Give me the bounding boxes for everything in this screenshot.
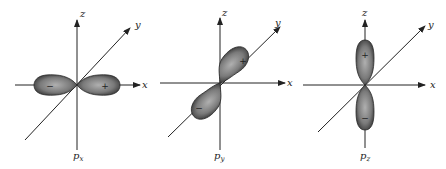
sign-plus: + — [361, 50, 369, 60]
y-axis — [168, 27, 280, 137]
y-axis-label: y — [274, 17, 281, 28]
lobe-negative — [186, 79, 232, 124]
sign-minus: − — [46, 81, 54, 91]
sign-minus: − — [361, 113, 369, 123]
lobe-positive — [356, 40, 374, 85]
z-axis-label: z — [221, 7, 228, 18]
panel-label: px — [73, 150, 83, 163]
z-axis-label: z — [79, 8, 86, 19]
y-axis-label: y — [134, 19, 141, 30]
panel-px: − + z y x px — [15, 8, 148, 163]
x-axis-label: x — [430, 79, 436, 90]
sign-minus: − — [195, 103, 203, 113]
panel-pz: + − z y x pz — [303, 7, 436, 163]
panel-label: pz — [360, 150, 370, 163]
x-axis-label: x — [287, 77, 293, 88]
x-axis-label: x — [142, 79, 148, 90]
panel-py: + − z y x py — [160, 7, 293, 163]
p-orbitals-diagram: − + z y x px + − z y x py + − — [0, 0, 446, 169]
sign-plus: + — [101, 81, 109, 91]
panel-label: py — [214, 150, 225, 163]
lobe-negative — [34, 75, 77, 95]
sign-plus: + — [239, 56, 247, 66]
lobe-positive — [208, 42, 254, 87]
z-axis-label: z — [361, 7, 368, 18]
y-axis-label: y — [427, 19, 434, 30]
